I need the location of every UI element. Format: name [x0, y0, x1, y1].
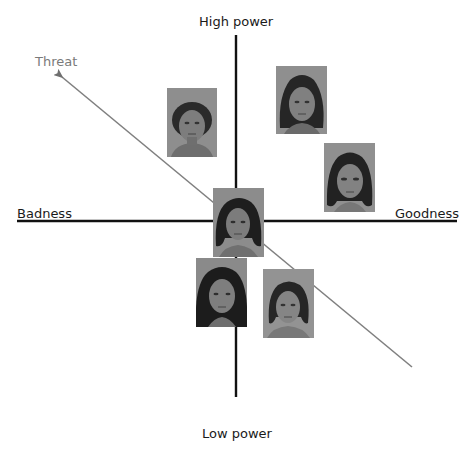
face-photo-woman-long-hair [276, 66, 327, 134]
face-portrait-icon [196, 258, 247, 327]
face-photo-man-curly [167, 88, 217, 157]
face-portrait-icon [167, 88, 217, 157]
face-photo-woman-bob [324, 143, 375, 212]
face-space-diagram: High power Low power Badness Goodness Th… [0, 0, 471, 452]
face-portrait-icon [213, 188, 264, 257]
badness-label: Badness [17, 207, 72, 220]
face-photo-woman-shoulder-hair [263, 269, 314, 338]
face-portrait-icon [263, 269, 314, 338]
high-power-label: High power [199, 15, 273, 28]
low-power-label: Low power [202, 427, 272, 440]
threat-label: Threat [35, 55, 77, 68]
face-photo-man-wavy-center [213, 188, 264, 257]
face-photo-woman-curly [196, 258, 247, 327]
face-portrait-icon [324, 143, 375, 212]
goodness-label: Goodness [395, 207, 459, 220]
face-portrait-icon [276, 66, 327, 134]
